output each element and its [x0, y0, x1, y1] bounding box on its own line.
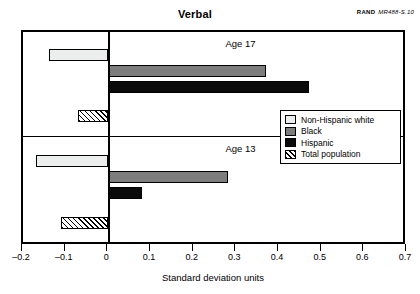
- x-tick-label: 0.2: [185, 252, 198, 262]
- bar-age-17-black: [108, 65, 266, 77]
- x-tick: [320, 244, 321, 251]
- bar-age-13-hispanic: [108, 187, 142, 199]
- bar-age-17-non-hispanic-white: [49, 49, 109, 61]
- x-axis-title: Standard deviation units: [0, 272, 420, 283]
- x-tick-label: 0.1: [143, 252, 156, 262]
- legend-item-hispanic[interactable]: Hispanic: [285, 137, 396, 149]
- x-tick: [277, 244, 278, 251]
- x-tick-label: –0.1: [55, 252, 73, 262]
- legend-label: Non-Hispanic white: [301, 115, 374, 125]
- bar-age-17-total-population: [78, 110, 108, 122]
- legend: Non-Hispanic whiteBlackHispanicTotal pop…: [280, 110, 401, 164]
- x-tick: [149, 244, 150, 251]
- legend-item-black[interactable]: Black: [285, 126, 396, 138]
- x-tick-label: 0.7: [399, 252, 412, 262]
- bar-age-13-black: [108, 171, 227, 183]
- x-tick: [362, 244, 363, 251]
- x-tick: [405, 244, 406, 251]
- x-tick: [64, 244, 65, 251]
- source-credit: RANDMR488-S.10: [357, 9, 414, 15]
- bar-age-13-total-population: [61, 217, 108, 229]
- plot-area: Age 17 Age 13 Non-Hispanic whiteBlackHis…: [21, 30, 405, 244]
- legend-label: Total population: [301, 149, 361, 159]
- legend-label: Black: [301, 126, 322, 136]
- x-tick-label: 0.6: [356, 252, 369, 262]
- x-tick-label: 0.3: [228, 252, 241, 262]
- legend-swatch-icon: [285, 150, 296, 159]
- zero-baseline: [108, 32, 110, 242]
- legend-item-non-hispanic-white[interactable]: Non-Hispanic white: [285, 114, 396, 126]
- chart-figure: Verbal RANDMR488-S.10 Age 17 Age 13 Non-…: [0, 0, 420, 294]
- x-axis-title-text: Standard deviation units: [162, 272, 264, 283]
- legend-swatch-icon: [285, 127, 296, 136]
- source-org: RAND: [357, 9, 376, 15]
- x-tick-label: –0.2: [12, 252, 30, 262]
- x-tick: [192, 244, 193, 251]
- legend-swatch-icon: [285, 115, 296, 124]
- bar-age-13-non-hispanic-white: [36, 155, 109, 167]
- legend-label: Hispanic: [301, 138, 334, 148]
- x-tick-label: 0: [104, 252, 109, 262]
- x-tick: [234, 244, 235, 251]
- x-axis-ticks: [21, 244, 405, 251]
- x-tick: [21, 244, 22, 251]
- x-tick-label: 0.5: [313, 252, 326, 262]
- legend-item-total-population[interactable]: Total population: [285, 149, 396, 161]
- panel-label-age-17: Age 17: [23, 38, 403, 49]
- legend-swatch-icon: [285, 138, 296, 147]
- bar-age-17-hispanic: [108, 81, 309, 93]
- chart-title-text: Verbal: [178, 8, 212, 20]
- x-axis-tick-labels: –0.2–0.100.10.20.30.40.50.60.7: [21, 252, 405, 266]
- source-document-id: MR488-S.10: [378, 9, 414, 15]
- x-tick-label: 0.4: [271, 252, 284, 262]
- x-tick: [106, 244, 107, 251]
